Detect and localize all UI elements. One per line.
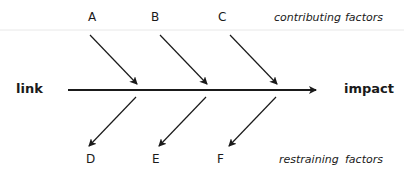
factor-f-label: F — [217, 152, 224, 166]
impact-label: impact — [344, 82, 394, 96]
factor-e-label: E — [152, 152, 160, 166]
link-label: link — [16, 82, 43, 96]
arrow-c — [230, 35, 277, 84]
contributing-factors-label: factors — [345, 11, 383, 25]
arrow-b — [160, 35, 207, 84]
factor-c-label: C — [218, 10, 226, 24]
factor-d-label: D — [86, 152, 95, 166]
restraining-factors-label: factors — [345, 153, 383, 167]
arrow-e — [159, 97, 206, 146]
restraining-label: restraining — [279, 153, 339, 167]
factor-b-label: B — [151, 10, 159, 24]
arrow-f — [229, 97, 276, 146]
factor-a-label: A — [88, 10, 96, 24]
arrow-a — [90, 35, 137, 84]
arrow-d — [89, 97, 136, 146]
contributing-label: contributing — [274, 11, 341, 25]
